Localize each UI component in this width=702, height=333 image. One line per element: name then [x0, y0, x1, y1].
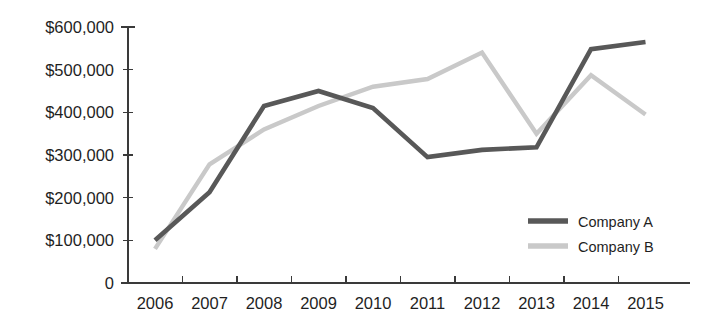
- y-tick-label: $200,000: [45, 189, 114, 207]
- y-tick-label: $400,000: [45, 103, 114, 121]
- x-tick-label: 2008: [246, 294, 283, 312]
- x-axis-tick-labels: 2006200720082009201020112012201320142015: [137, 294, 664, 312]
- legend-label-company-b: Company B: [578, 239, 654, 255]
- y-tick-label: $500,000: [45, 61, 114, 79]
- line-chart: 0$100,000$200,000$300,000$400,000$500,00…: [0, 0, 702, 333]
- y-tick-label: $100,000: [45, 231, 114, 249]
- y-tick-label: $300,000: [45, 146, 114, 164]
- chart-canvas: 0$100,000$200,000$300,000$400,000$500,00…: [0, 0, 702, 333]
- y-tick-label: 0: [105, 274, 114, 292]
- legend-label-company-a: Company A: [578, 214, 653, 230]
- x-tick-label: 2015: [627, 294, 664, 312]
- y-axis-tick-labels: 0$100,000$200,000$300,000$400,000$500,00…: [45, 18, 114, 292]
- chart-legend: Company ACompany B: [528, 214, 654, 255]
- y-tick-label: $600,000: [45, 18, 114, 36]
- x-tick-label: 2006: [137, 294, 174, 312]
- x-tick-label: 2011: [410, 294, 445, 312]
- x-tick-label: 2014: [573, 294, 610, 312]
- series-line-company-a: [155, 42, 646, 240]
- x-tick-label: 2007: [191, 294, 228, 312]
- x-tick-label: 2012: [464, 294, 501, 312]
- x-tick-label: 2013: [518, 294, 555, 312]
- data-series: [155, 42, 646, 249]
- x-tick-label: 2010: [355, 294, 392, 312]
- x-tick-label: 2009: [300, 294, 337, 312]
